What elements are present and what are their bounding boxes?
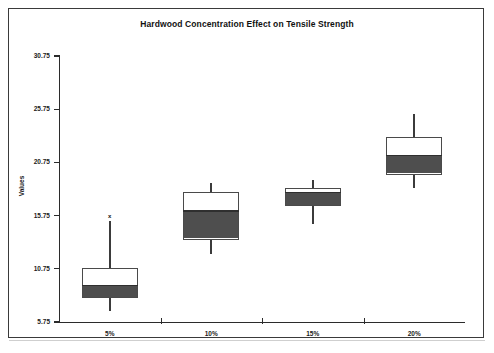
median-line xyxy=(183,210,239,211)
x-tick-mark xyxy=(161,318,162,324)
whisker-lower xyxy=(413,175,415,189)
box-lower-fill xyxy=(387,155,441,173)
x-tick-mark xyxy=(262,318,263,324)
y-tick-label: 20.75 xyxy=(6,158,50,165)
page-frame-shadow xyxy=(9,340,485,341)
box-lower-fill xyxy=(83,285,137,297)
whisker-lower xyxy=(210,240,212,255)
y-tick-mark xyxy=(54,321,60,322)
whisker-upper xyxy=(312,180,314,189)
boxplot-figure: Hardwood Concentration Effect on Tensile… xyxy=(0,0,494,353)
y-tick-label: 5.75 xyxy=(6,318,50,325)
whisker-upper xyxy=(210,183,212,192)
x-tick-mark xyxy=(364,318,365,324)
y-tick-label: 25.75 xyxy=(6,105,50,112)
y-tick-label: 15.75 xyxy=(6,212,50,219)
y-axis-line xyxy=(59,56,60,323)
outlier-marker: x xyxy=(105,213,115,219)
x-tick-label-20pct: 20% xyxy=(384,330,444,337)
median-line xyxy=(386,155,442,156)
y-tick-mark xyxy=(54,215,60,216)
x-tick-label-10pct: 10% xyxy=(181,330,241,337)
box-lower-fill xyxy=(184,211,238,239)
y-tick-mark xyxy=(54,162,60,163)
y-tick-mark xyxy=(54,55,60,56)
median-line xyxy=(82,285,138,286)
x-tick-label-5pct: 5% xyxy=(80,330,140,337)
whisker-upper xyxy=(109,221,111,268)
y-tick-mark xyxy=(54,109,60,110)
y-tick-label: 10.75 xyxy=(6,265,50,272)
whisker-lower xyxy=(109,298,111,311)
box-lower-fill xyxy=(286,193,340,205)
whisker-lower xyxy=(312,206,314,224)
median-line xyxy=(285,192,341,193)
whisker-upper xyxy=(413,114,415,137)
y-tick-mark xyxy=(54,268,60,269)
y-tick-label: 30.75 xyxy=(6,52,50,59)
chart-title: Hardwood Concentration Effect on Tensile… xyxy=(0,19,494,29)
x-tick-label-15pct: 15% xyxy=(283,330,343,337)
